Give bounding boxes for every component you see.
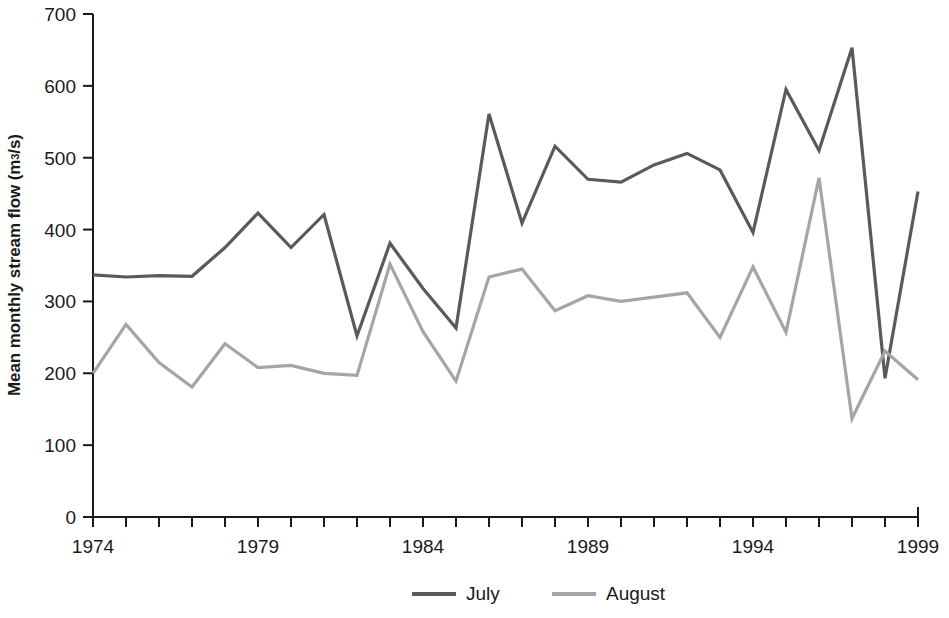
x-tick-label: 1984 <box>402 536 445 557</box>
legend-label-august: August <box>606 583 666 604</box>
y-tick-label: 500 <box>44 148 76 169</box>
y-tick-label: 0 <box>65 507 76 528</box>
y-axis-ticks: 0100200300400500600700 <box>44 4 93 528</box>
y-tick-label: 600 <box>44 76 76 97</box>
x-tick-label: 1994 <box>732 536 775 557</box>
legend-label-july: July <box>466 583 500 604</box>
y-tick-label: 400 <box>44 220 76 241</box>
x-tick-label: 1974 <box>72 536 115 557</box>
series-line-august <box>93 178 918 419</box>
chart-legend: JulyAugust <box>412 583 666 604</box>
y-tick-label: 300 <box>44 291 76 312</box>
x-tick-label: 1989 <box>567 536 609 557</box>
y-tick-label: 200 <box>44 363 76 384</box>
y-tick-label: 700 <box>44 4 76 25</box>
stream-flow-line-chart: Mean monthly stream flow (m3/s) 01002003… <box>0 0 949 618</box>
x-axis-ticks: 197419791984198919941999 <box>72 517 939 557</box>
data-series <box>93 48 918 419</box>
x-tick-label: 1979 <box>237 536 279 557</box>
x-tick-label: 1999 <box>897 536 939 557</box>
series-line-july <box>93 48 918 379</box>
y-tick-label: 100 <box>44 435 76 456</box>
chart-plot-area: 0100200300400500600700 19741979198419891… <box>0 0 949 618</box>
